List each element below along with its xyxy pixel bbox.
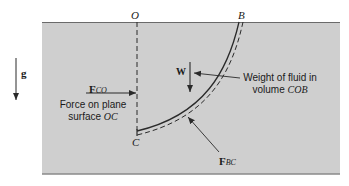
point-c-label: C	[132, 137, 139, 148]
force-bc-symbol: F	[219, 155, 226, 167]
force-co-symbol: F	[89, 83, 96, 95]
force-co-subscript: CO	[96, 86, 107, 95]
point-b-label: B	[238, 10, 245, 21]
point-o-label: O	[131, 10, 139, 21]
weight-desc-line2: volume COB	[240, 84, 320, 96]
force-co-desc-line2: surface OC	[50, 111, 136, 123]
gravity-label: g	[21, 68, 27, 79]
fluid-region	[42, 22, 340, 174]
weight-desc-line1: Weight of fluid in	[240, 72, 320, 84]
force-co-desc-line1: Force on plane	[50, 99, 136, 111]
force-bc-label: FBC	[219, 152, 236, 168]
force-co-label: FCO	[89, 80, 107, 96]
weight-description: Weight of fluid in volume COB	[240, 72, 320, 96]
weight-desc-prefix: volume	[252, 84, 287, 95]
weight-symbol: W	[176, 67, 186, 77]
force-bc-subscript: BC	[226, 158, 236, 167]
force-co-desc-italic: OC	[104, 111, 118, 122]
force-co-desc-prefix: surface	[68, 111, 104, 122]
weight-desc-italic: COB	[288, 84, 308, 95]
force-co-description: Force on plane surface OC	[50, 99, 136, 123]
